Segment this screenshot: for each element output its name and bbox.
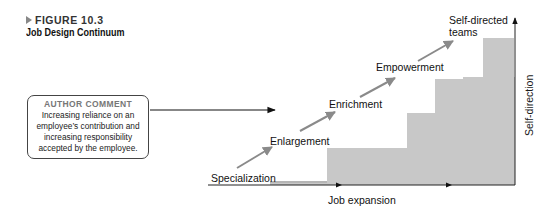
- step-label-enrichment: Enrichment: [329, 98, 382, 110]
- step-arrow-2: [300, 112, 335, 131]
- y-axis-label: Self-direction: [523, 75, 535, 136]
- step-label-empowerment: Empowerment: [376, 61, 444, 73]
- step-arrow-4: [418, 41, 453, 61]
- step-label-enlargement: Enlargement: [270, 135, 330, 147]
- x-axis-label: Job expansion: [328, 194, 396, 206]
- step-label-specialization: Specialization: [211, 172, 276, 184]
- step-label-self-directed: Self-directed: [449, 14, 508, 26]
- step-label-teams: teams: [449, 26, 478, 38]
- step-arrow-1: [237, 147, 272, 168]
- step-arrow-3: [360, 78, 395, 97]
